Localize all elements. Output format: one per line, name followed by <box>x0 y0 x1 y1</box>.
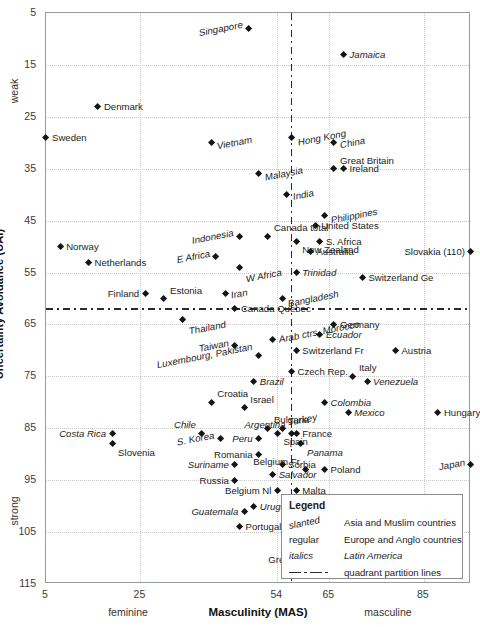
point-marker-diamond-icon <box>363 378 370 385</box>
point-label-text: Colombia <box>331 397 372 408</box>
point-marker-diamond-icon <box>288 134 295 141</box>
point-label: Sweden <box>52 133 87 143</box>
legend-key-text: slanted <box>289 514 320 531</box>
point-label: Slovakia (110) <box>404 247 465 257</box>
legend: Legend slantedAsia and Muslim countriesr… <box>281 494 463 579</box>
point-label: Trinidad <box>302 268 336 278</box>
point-marker-diamond-icon <box>359 274 366 281</box>
point-label-text: Salvador <box>279 469 317 480</box>
point-marker-diamond-icon <box>264 233 271 240</box>
point-label: Slovenia <box>118 448 155 458</box>
point-label: Poland <box>331 465 361 475</box>
point-label: Switzerland Fr <box>302 346 363 356</box>
point-label-text: Guatemala <box>191 506 238 517</box>
point-label: Portugal <box>246 522 282 532</box>
point-label-text: Switzerland Fr <box>302 345 363 356</box>
point-marker-diamond-icon <box>208 139 215 146</box>
legend-row: slantedAsia and Muslim countries <box>289 516 455 529</box>
legend-key: regular <box>289 534 344 545</box>
point-label: Jamaica <box>350 50 386 60</box>
x-tick-label: 65 <box>308 588 348 600</box>
point-label: W Africa <box>246 271 282 281</box>
point-label-text: Ireland <box>350 163 379 174</box>
legend-description: quadrant partition lines <box>344 567 441 578</box>
point-label-text: Norway <box>66 241 99 252</box>
y-tick-label: 5 <box>8 6 36 18</box>
point-marker-diamond-icon <box>278 295 285 302</box>
point-label-text: Russia <box>200 475 229 486</box>
x-tick-label: 85 <box>403 588 443 600</box>
point-label-text: Poland <box>331 464 361 475</box>
point-label-text: Ecuador <box>326 329 362 340</box>
point-label: Italy <box>359 363 377 373</box>
point-marker-diamond-icon <box>255 170 262 177</box>
point-marker-diamond-icon <box>274 430 281 437</box>
point-marker-diamond-icon <box>141 290 148 297</box>
point-marker-diamond-icon <box>321 399 328 406</box>
point-label: Spain <box>283 437 308 447</box>
point-label-text: W Africa <box>246 268 282 285</box>
point-label: Malaysia <box>265 169 303 179</box>
point-marker-diamond-icon <box>241 404 248 411</box>
x-axis-title: Masculinity (MAS) <box>208 606 307 618</box>
point-marker-diamond-icon <box>236 233 243 240</box>
point-label-text: Netherlands <box>95 257 147 268</box>
point-marker-diamond-icon <box>345 409 352 416</box>
point-label: Panama <box>307 448 343 458</box>
point-label: Ecuador <box>326 330 362 340</box>
x-axis-pole-masculine: masculine <box>364 606 411 618</box>
point-label-text: Thailand <box>189 320 226 337</box>
point-label: Czech Rep. <box>298 367 348 377</box>
point-label: S. Korea <box>177 434 214 444</box>
y-tick-label: 65 <box>8 317 36 329</box>
point-marker-diamond-icon <box>321 212 328 219</box>
point-marker-diamond-icon <box>467 461 474 468</box>
gridline-horizontal <box>46 221 469 222</box>
point-marker-diamond-icon <box>274 487 281 494</box>
x-tick-label: 25 <box>119 588 159 600</box>
point-label: Switzerland Ge <box>368 273 433 283</box>
gridline-horizontal <box>46 324 469 325</box>
point-label: Singapore <box>199 24 243 34</box>
point-label: Mexico <box>354 408 384 418</box>
point-marker-diamond-icon <box>269 471 276 478</box>
legend-row: regularEurope and Anglo countries <box>289 533 455 546</box>
point-marker-diamond-icon <box>56 243 63 250</box>
point-label: Peru <box>232 434 252 444</box>
point-label-text: Australia <box>316 246 353 257</box>
point-label: Germany <box>340 320 379 330</box>
y-tick-label: 105 <box>8 525 36 537</box>
point-label-text: China <box>340 136 365 150</box>
point-label-text: Peru <box>232 433 252 444</box>
point-marker-diamond-icon <box>349 373 356 380</box>
point-marker-diamond-icon <box>231 305 238 312</box>
legend-key-text: italics <box>289 550 313 561</box>
point-marker-diamond-icon <box>94 103 101 110</box>
point-label-text: Germany <box>340 319 379 330</box>
point-marker-diamond-icon <box>250 378 257 385</box>
point-label-text: Croatia <box>217 388 248 399</box>
legend-row: quadrant partition lines <box>289 566 455 579</box>
point-label: Japan <box>439 460 465 470</box>
point-label-text: Austria <box>401 345 431 356</box>
point-label-text: Brazil <box>260 376 284 387</box>
point-marker-diamond-icon <box>467 248 474 255</box>
point-label: Philippines <box>331 211 377 221</box>
point-label-text: Switzerland Ge <box>368 272 433 283</box>
point-marker-diamond-icon <box>288 368 295 375</box>
point-marker-diamond-icon <box>231 461 238 468</box>
point-label: Brazil <box>260 377 284 387</box>
y-axis-title: Uncertainty Avoidance (UAI) <box>0 229 5 379</box>
point-marker-diamond-icon <box>85 258 92 265</box>
point-label-text: Panama <box>307 447 343 458</box>
point-marker-diamond-icon <box>108 440 115 447</box>
point-label-text: Portugal <box>246 521 282 532</box>
point-label-text: Bangladesh <box>288 289 339 308</box>
point-label: Indonesia <box>192 232 234 242</box>
point-marker-diamond-icon <box>222 290 229 297</box>
point-marker-diamond-icon <box>236 264 243 271</box>
point-label: Costa Rica <box>59 429 106 439</box>
point-label-text: Jamaica <box>350 49 386 60</box>
point-label: Finland <box>108 289 139 299</box>
point-label: Australia <box>316 247 353 257</box>
